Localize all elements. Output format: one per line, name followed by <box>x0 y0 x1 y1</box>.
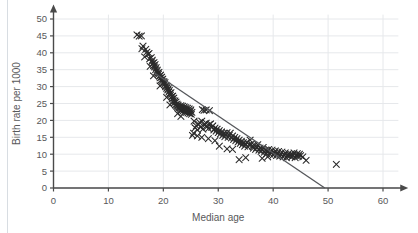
data-point-marker <box>236 157 242 163</box>
y-tick-label: 20 <box>36 115 47 126</box>
y-tick-label: 35 <box>36 64 47 75</box>
scatter-plot-figure: 051015202530354045500102030405060 Median… <box>0 0 418 233</box>
y-tick-label: 15 <box>36 132 47 143</box>
data-point-marker <box>212 138 218 144</box>
data-point-marker <box>303 157 309 163</box>
y-tick-label: 40 <box>36 47 47 58</box>
gridlines <box>54 15 399 188</box>
axis-lines <box>50 5 408 192</box>
data-point-marker <box>243 155 249 161</box>
x-tick-label: 10 <box>103 195 114 206</box>
y-tick-label: 0 <box>42 182 47 193</box>
data-point-marker <box>194 133 200 139</box>
x-tick-label: 60 <box>378 195 389 206</box>
data-point-marker <box>216 143 222 149</box>
data-point-marker <box>205 136 211 142</box>
data-points <box>134 32 339 167</box>
axis-tick-labels: 051015202530354045500102030405060 <box>36 13 388 205</box>
y-tick-label: 45 <box>36 30 47 41</box>
y-tick-label: 10 <box>36 149 47 160</box>
chart-canvas: 051015202530354045500102030405060 Median… <box>0 0 418 233</box>
x-tick-label: 30 <box>213 195 224 206</box>
y-tick-label: 50 <box>36 13 47 24</box>
axis-ticks <box>50 19 383 192</box>
y-tick-label: 5 <box>42 166 47 177</box>
x-axis-title: Median age <box>192 212 245 223</box>
x-tick-label: 40 <box>268 195 279 206</box>
y-tick-label: 25 <box>36 98 47 109</box>
data-point-marker <box>230 146 236 152</box>
data-point-marker <box>259 155 265 161</box>
x-tick-label: 20 <box>158 195 169 206</box>
data-point-marker <box>333 161 339 167</box>
x-tick-label: 0 <box>51 195 56 206</box>
y-axis-title: Birth rate per 1000 <box>11 62 22 145</box>
x-tick-label: 50 <box>323 195 334 206</box>
y-tick-label: 30 <box>36 81 47 92</box>
